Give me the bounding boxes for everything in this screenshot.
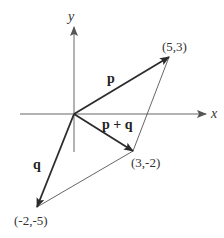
edge-sum-to-q (37, 151, 133, 207)
vectors (37, 57, 169, 207)
y-axis-label: y (66, 9, 75, 24)
point-label-5-3: (5,3) (162, 39, 187, 54)
label-p: p (107, 71, 115, 86)
vector-labels: p q p + q (33, 71, 133, 172)
point-label-neg2-neg5: (-2,-5) (14, 213, 48, 228)
vector-diagram: x y p q p + q (5,3) (3,-2) (-2,-5) (0, 0, 224, 238)
label-q: q (33, 157, 41, 172)
label-p-plus-q: p + q (102, 117, 133, 132)
vector-p (74, 57, 169, 114)
point-label-3-neg2: (3,-2) (131, 155, 160, 170)
edge-p-to-sum (133, 57, 169, 151)
x-axis-label: x (210, 106, 218, 121)
vector-q (37, 114, 74, 207)
